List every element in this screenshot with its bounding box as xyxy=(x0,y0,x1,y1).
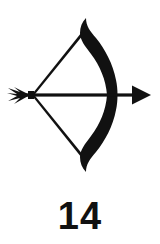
arrow-nock xyxy=(28,91,34,99)
arrow-fletching xyxy=(7,87,30,104)
arrow-head xyxy=(132,86,151,105)
bow-and-arrow-icon xyxy=(0,0,160,190)
arrow-shaft xyxy=(22,93,137,96)
bow-string xyxy=(32,28,88,97)
bow-string-lower xyxy=(32,94,88,163)
figure-panel: 14 xyxy=(0,0,160,244)
figure-caption: 14 xyxy=(0,196,160,236)
